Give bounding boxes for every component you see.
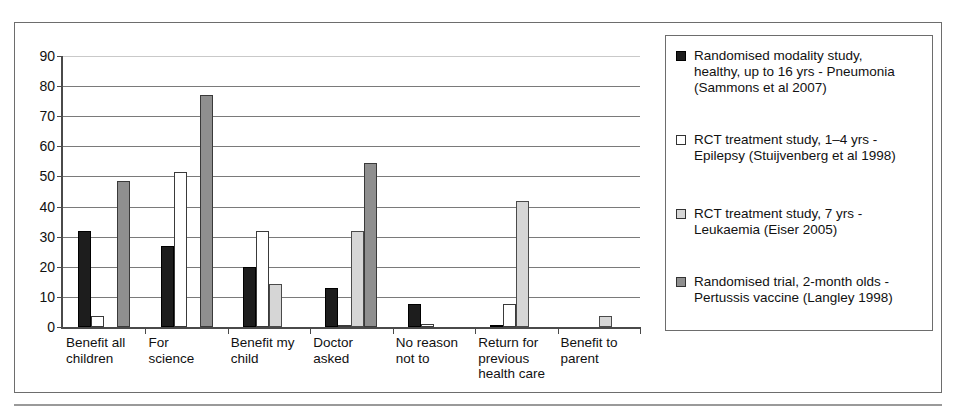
bar — [421, 324, 434, 327]
legend-label-line: Epilepsy (Stuijvenberg et al 1998) — [694, 148, 896, 164]
legend-label-line: Leukaemia (Eiser 2005) — [694, 222, 862, 238]
bar — [516, 201, 529, 327]
bar — [243, 267, 256, 327]
x-axis-tick-mark — [475, 327, 476, 334]
x-axis-tick-mark — [310, 327, 311, 334]
legend-label: RCT treatment study, 7 yrs -Leukaemia (E… — [694, 206, 862, 238]
legend-item[interactable]: Randomised trial, 2-month olds -Pertussi… — [676, 274, 926, 306]
bar — [325, 288, 338, 327]
caption-remnant — [14, 0, 434, 10]
bar — [490, 325, 503, 327]
bar — [503, 304, 516, 327]
legend-label-line: Randomised modality study, — [694, 48, 895, 64]
legend-label-line: Pertussis vaccine (Langley 1998) — [694, 290, 893, 306]
bar-group — [145, 56, 227, 327]
legend-swatch-light-grey-square-icon — [676, 209, 686, 219]
bar — [117, 181, 130, 327]
y-axis-tick-label: 90 — [39, 49, 55, 63]
legend-item[interactable]: Randomised modality study,healthy, up to… — [676, 48, 926, 96]
bar — [91, 316, 104, 327]
x-axis-tick-mark — [640, 327, 641, 334]
bar — [161, 246, 174, 327]
y-axis-tick-label: 50 — [39, 169, 55, 183]
y-axis-tick-label: 70 — [39, 109, 55, 123]
x-axis-category-label-line: health care — [478, 366, 574, 382]
legend-label-line: healthy, up to 16 yrs - Pneumonia — [694, 64, 895, 80]
legend-label: RCT treatment study, 1–4 yrs -Epilepsy (… — [694, 132, 896, 164]
y-axis-tick-label: 0 — [47, 320, 55, 334]
bar-group — [558, 56, 640, 327]
page-rule — [14, 404, 942, 406]
x-axis-category-labels: Benefit allchildrenForscienceBenefit myc… — [61, 335, 661, 393]
y-axis-tick-label: 80 — [39, 79, 55, 93]
bar-group — [63, 56, 145, 327]
bar — [200, 95, 213, 327]
x-axis-category-label-line: parent — [561, 351, 657, 367]
y-axis-tick-label: 20 — [39, 260, 55, 274]
bar — [364, 163, 377, 327]
bar — [351, 231, 364, 327]
legend-item[interactable]: RCT treatment study, 7 yrs -Leukaemia (E… — [676, 206, 926, 238]
bar-group — [393, 56, 475, 327]
plot-area — [61, 56, 640, 329]
bar-group — [228, 56, 310, 327]
x-axis-tick-mark — [145, 327, 146, 334]
legend-label: Randomised trial, 2-month olds -Pertussi… — [694, 274, 893, 306]
y-axis-tick-label: 60 — [39, 139, 55, 153]
y-axis-tick-mark — [57, 327, 63, 328]
legend-swatch-filled-black-square-icon — [676, 51, 686, 61]
y-axis-tick-labels: 0102030405060708090 — [15, 23, 59, 333]
bar — [78, 231, 91, 327]
legend-label: Randomised modality study,healthy, up to… — [694, 48, 895, 96]
plot-wrapper: 0102030405060708090 Benefit allchildrenF… — [15, 23, 660, 392]
bar-group — [475, 56, 557, 327]
legend-label-line: RCT treatment study, 7 yrs - — [694, 206, 862, 222]
legend-item[interactable]: RCT treatment study, 1–4 yrs -Epilepsy (… — [676, 132, 926, 164]
legend-swatch-open-white-square-icon — [676, 135, 686, 145]
y-axis-tick-label: 10 — [39, 290, 55, 304]
bar — [599, 316, 612, 327]
x-axis-tick-mark — [393, 327, 394, 334]
x-axis-category-label: Benefit toparent — [561, 335, 657, 366]
legend-swatch-mid-grey-square-icon — [676, 277, 686, 287]
y-axis-tick-label: 40 — [39, 200, 55, 214]
bar — [338, 325, 351, 327]
bar — [256, 231, 269, 327]
x-axis-tick-mark — [558, 327, 559, 334]
bar — [174, 172, 187, 327]
y-axis-tick-label: 30 — [39, 230, 55, 244]
legend-label-line: (Sammons et al 2007) — [694, 80, 895, 96]
legend-label-line: Randomised trial, 2-month olds - — [694, 274, 893, 290]
x-axis-category-label-line: Benefit to — [561, 335, 657, 351]
figure-frame: 0102030405060708090 Benefit allchildrenF… — [14, 22, 942, 393]
legend-label-line: RCT treatment study, 1–4 yrs - — [694, 132, 896, 148]
bar — [408, 304, 421, 327]
x-axis-tick-mark — [228, 327, 229, 334]
bar-group — [310, 56, 392, 327]
legend: Randomised modality study,healthy, up to… — [665, 35, 933, 331]
bar — [269, 284, 282, 327]
bars-layer — [63, 56, 640, 327]
